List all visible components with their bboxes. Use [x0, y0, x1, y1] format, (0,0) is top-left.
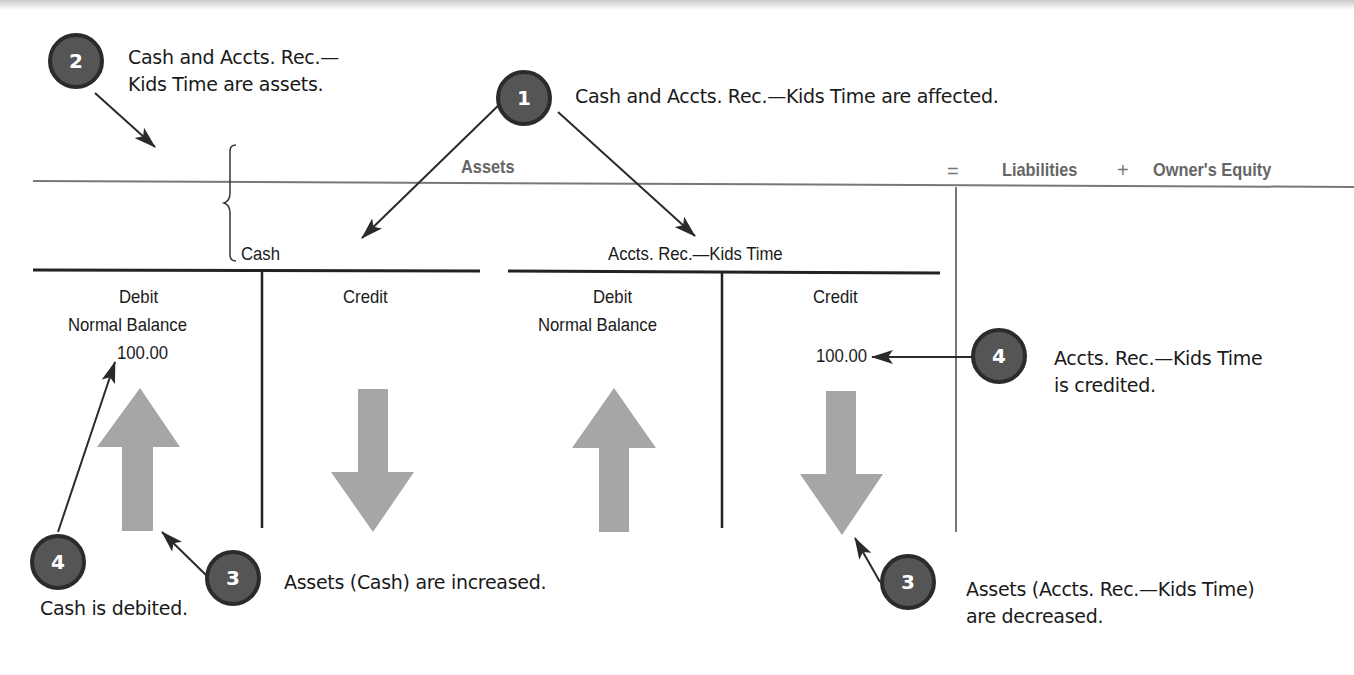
- ar-debit-label: Debit: [593, 286, 632, 308]
- callout-2-text: Cash and Accts. Rec.— Kids Time are asse…: [128, 44, 339, 98]
- down-arrow-icon: [331, 389, 414, 532]
- assets-brace: [224, 145, 236, 261]
- callout-3-decrease-text: Assets (Accts. Rec.—Kids Time) are decre…: [966, 576, 1254, 630]
- ar-account-title: Accts. Rec.—Kids Time: [608, 243, 783, 265]
- ar-debit-normal-balance: Normal Balance: [538, 314, 657, 336]
- step-badge-4-debit: 4: [30, 534, 86, 590]
- cash-debit-value: 100.00: [117, 342, 168, 364]
- cash-debit-label: Debit: [119, 286, 158, 308]
- ar-credit-value: 100.00: [816, 345, 867, 367]
- owners-equity-heading: Owner's Equity: [1153, 159, 1271, 181]
- assets-heading: Assets: [461, 156, 515, 178]
- equals-sign: =: [947, 160, 959, 183]
- cash-account-title: Cash: [241, 243, 280, 265]
- callout-4-credit-text: Accts. Rec.—Kids Time is credited.: [1054, 345, 1262, 399]
- step-badge-1: 1: [496, 70, 552, 126]
- step-badge-3-increase: 3: [205, 550, 261, 606]
- liabilities-heading: Liabilities: [1002, 159, 1077, 181]
- cash-credit-label: Credit: [343, 286, 388, 308]
- up-arrow-icon: [572, 388, 656, 532]
- step-badge-4-credit: 4: [971, 328, 1027, 384]
- step-badge-2: 2: [48, 33, 104, 89]
- callout-1-text: Cash and Accts. Rec.—Kids Time are affec…: [575, 83, 998, 110]
- callout-4-debit-text: Cash is debited.: [40, 595, 188, 622]
- cash-debit-normal-balance: Normal Balance: [68, 314, 187, 336]
- callout-3-increase-text: Assets (Cash) are increased.: [284, 569, 546, 596]
- ar-credit-label: Credit: [813, 286, 858, 308]
- down-arrow-icon: [800, 391, 883, 535]
- plus-sign: +: [1117, 159, 1129, 182]
- equation-rule: [33, 181, 1354, 187]
- step-badge-3-decrease: 3: [880, 554, 936, 610]
- up-arrow-icon: [97, 388, 180, 531]
